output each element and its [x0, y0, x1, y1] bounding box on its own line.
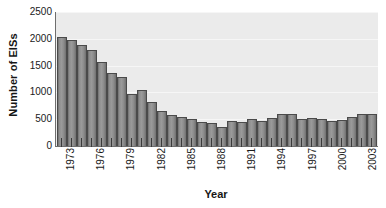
x-axis-tick-mark: [276, 137, 286, 147]
y-axis-tick-label: 0: [46, 140, 52, 152]
chart-figure: Number of EISs 05001000150020002500 1973…: [0, 0, 386, 208]
bar: [97, 62, 106, 146]
x-axis-tick-label: 1976: [95, 148, 106, 170]
plot-area: [55, 12, 378, 147]
x-axis-tick-mark: [146, 137, 156, 147]
x-axis-tick-mark: [176, 137, 186, 147]
x-axis-tick-mark: [266, 137, 276, 147]
x-axis-tick-mark: [316, 137, 326, 147]
x-axis-tick-label: 1994: [276, 148, 287, 170]
y-axis-tick-label: 2000: [30, 33, 52, 45]
x-axis-tick-mark: [66, 137, 76, 147]
x-axis-tick-label: 1997: [307, 148, 318, 170]
x-axis-tick-label: 1982: [156, 148, 167, 170]
x-axis-tick-mark: [296, 137, 306, 147]
y-axis-tick-label: 500: [35, 113, 52, 125]
x-axis-tick-label: 1988: [216, 148, 227, 170]
x-axis-tick-mark: [226, 137, 236, 147]
x-axis-tick-labels: 1973197619791982198519881991199419972000…: [55, 148, 377, 186]
bar: [87, 50, 96, 146]
x-axis-tick-mark: [96, 137, 106, 147]
x-axis-tick-mark: [256, 137, 266, 147]
bar: [117, 77, 126, 146]
x-axis-tick-mark: [366, 137, 376, 147]
bar-series: [56, 12, 378, 146]
x-axis-tick-label: 2003: [367, 148, 378, 170]
y-axis-tick-label: 1000: [30, 86, 52, 98]
x-axis-tick-mark: [186, 137, 196, 147]
x-axis-tick-mark: [156, 137, 166, 147]
x-axis-tick-mark: [126, 137, 136, 147]
x-axis-tick-marks: [55, 137, 377, 147]
bar: [107, 73, 116, 146]
x-axis-tick-mark: [136, 137, 146, 147]
x-axis-tick-mark: [166, 137, 176, 147]
x-axis-tick-label: 1985: [186, 148, 197, 170]
x-axis-tick-label: 2000: [337, 148, 348, 170]
x-axis-tick-mark: [326, 137, 336, 147]
x-axis-tick-mark: [76, 137, 86, 147]
bar: [77, 45, 86, 146]
x-axis-tick-mark: [336, 137, 346, 147]
x-axis-tick-mark: [356, 137, 366, 147]
x-axis-title: Year: [55, 188, 377, 200]
bar: [57, 37, 66, 146]
x-axis-tick-label: 1991: [246, 148, 257, 170]
y-axis-tick-label: 2500: [30, 6, 52, 18]
x-axis-tick-label: 1979: [125, 148, 136, 170]
x-axis-tick-mark: [196, 137, 206, 147]
x-axis-tick-mark: [346, 137, 356, 147]
bar: [67, 40, 76, 146]
x-axis-tick-mark: [216, 137, 226, 147]
x-axis-tick-mark: [236, 137, 246, 147]
x-axis-tick-label: 1973: [65, 148, 76, 170]
x-axis-tick-mark: [206, 137, 216, 147]
x-axis-tick-mark: [56, 137, 66, 147]
y-axis-tick-label: 1500: [30, 60, 52, 72]
x-axis-tick-mark: [106, 137, 116, 147]
x-axis-tick-mark: [86, 137, 96, 147]
x-axis-tick-mark: [306, 137, 316, 147]
x-axis-tick-mark: [246, 137, 256, 147]
y-axis-tick-labels: 05001000150020002500: [18, 0, 52, 208]
x-axis-tick-mark: [286, 137, 296, 147]
x-axis-tick-mark: [116, 137, 126, 147]
